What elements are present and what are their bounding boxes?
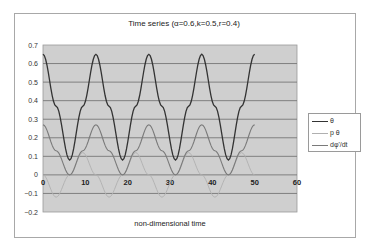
legend-label: p θ bbox=[330, 127, 340, 139]
legend-label: θ bbox=[330, 115, 334, 127]
legend-label: dφ'/dt bbox=[330, 139, 348, 151]
chart-title: Time series (α=0.6,k=0.5,r=0.4) bbox=[0, 19, 368, 28]
y-tick-label: −0.1 bbox=[24, 190, 38, 197]
legend-item-dphi-dt: dφ'/dt bbox=[312, 139, 360, 151]
legend-swatch-p-theta bbox=[312, 133, 328, 134]
x-tick-label: 60 bbox=[293, 178, 301, 187]
x-axis-label: non-dimensional time bbox=[43, 219, 297, 228]
y-tick-label: 0 bbox=[34, 171, 38, 178]
y-tick-label: 0.4 bbox=[28, 97, 38, 104]
y-tick-label: 0.6 bbox=[28, 60, 38, 67]
x-tick-label: 50 bbox=[250, 178, 258, 187]
legend-item-p-theta: p θ bbox=[312, 127, 360, 139]
y-tick-label: 0.7 bbox=[28, 42, 38, 49]
x-tick-label: 10 bbox=[81, 178, 89, 187]
legend-swatch-theta bbox=[312, 121, 328, 122]
x-tick-label: 20 bbox=[123, 178, 131, 187]
y-tick-label: 0.5 bbox=[28, 79, 38, 86]
plot-background bbox=[43, 45, 297, 212]
x-tick-label: 40 bbox=[208, 178, 216, 187]
y-tick-label: 0.2 bbox=[28, 134, 38, 141]
x-tick-label: 0 bbox=[41, 178, 45, 187]
y-tick-label: 0.3 bbox=[28, 116, 38, 123]
y-tick-label: −0.2 bbox=[24, 209, 38, 216]
legend: θ p θ dφ'/dt bbox=[308, 113, 361, 152]
legend-item-theta: θ bbox=[312, 115, 360, 127]
y-tick-label: 0.1 bbox=[28, 153, 38, 160]
legend-swatch-dphi-dt bbox=[312, 145, 328, 146]
